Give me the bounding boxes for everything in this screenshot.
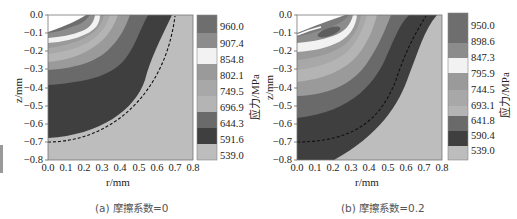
colorbar-tick: 641.8 (471, 116, 495, 126)
y-tick: −0.4 (5, 83, 43, 93)
y-tick: −0.7 (254, 137, 292, 147)
y-tick: −0.3 (5, 64, 43, 74)
colorbar-tick: 847.3 (471, 53, 495, 63)
caption-b: (b) 摩擦系数=0.2 (341, 200, 425, 215)
x-tick: 0.0 (38, 163, 58, 173)
colorbar-tick: 696.9 (220, 103, 244, 113)
x-tick: 0.8 (432, 163, 452, 173)
x-tick: 0.6 (147, 163, 167, 173)
x-tick: 0.3 (92, 163, 112, 173)
x-axis-label: r/mm (106, 176, 130, 188)
colorbar-b (448, 13, 468, 160)
colorbar-tick: 591.6 (220, 135, 244, 145)
colorbar-tick: 539.0 (220, 151, 244, 161)
y-tick: −0.6 (254, 119, 292, 129)
x-tick: 0.1 (305, 163, 325, 173)
colorbar-tick: 693.1 (471, 101, 495, 111)
x-tick: 0.4 (110, 163, 130, 173)
x-tick: 0.8 (183, 163, 203, 173)
colorbar-tick: 744.5 (471, 85, 495, 95)
y-axis-label: z/mm (263, 75, 275, 100)
x-tick: 0.6 (396, 163, 416, 173)
x-axis-label: r/mm (355, 176, 379, 188)
colorbar-tick: 795.9 (471, 69, 495, 79)
x-tick: 0.7 (165, 163, 185, 173)
caption-a: (a) 摩擦系数=0 (95, 200, 168, 215)
y-tick: −0.3 (254, 64, 292, 74)
x-tick: 0.5 (378, 163, 398, 173)
y-tick: −0.5 (5, 101, 43, 111)
x-tick: 0.4 (359, 163, 379, 173)
colorbar-tick: 950.0 (471, 21, 495, 31)
colorbar-tick: 749.5 (220, 87, 244, 97)
panel-b: 0.0 −0.1 −0.2 −0.3 −0.4 −0.5 −0.6 −0.7 −… (259, 0, 517, 219)
colorbar-tick: 590.4 (471, 131, 495, 141)
colorbar-tick: 539.0 (471, 146, 495, 156)
colorbar-tick: 907.4 (220, 39, 244, 49)
x-tick: 0.7 (414, 163, 434, 173)
x-tick: 0.1 (56, 163, 76, 173)
colorbar-tick: 854.8 (220, 55, 244, 65)
x-tick: 0.5 (129, 163, 149, 173)
colorbar-tick: 898.6 (471, 37, 495, 47)
x-tick: 0.0 (287, 163, 307, 173)
x-tick: 0.3 (341, 163, 361, 173)
y-tick: −0.1 (5, 28, 43, 38)
y-tick: −0.2 (254, 46, 292, 56)
y-axis-label: z/mm (12, 78, 24, 103)
y-tick: −0.1 (254, 28, 292, 38)
y-tick: −0.7 (5, 137, 43, 147)
y-tick: −0.5 (254, 101, 292, 111)
colorbar-tick: 802.1 (220, 71, 244, 81)
x-tick: 0.2 (74, 163, 94, 173)
colorbar-tick: 960.0 (220, 22, 244, 32)
y-tick: −0.2 (5, 46, 43, 56)
colorbar-a (197, 15, 217, 160)
y-tick: −0.6 (5, 119, 43, 129)
colorbar-label: 应力/MPa (496, 72, 512, 118)
y-tick: 0.0 (254, 10, 292, 20)
y-tick: 0.0 (5, 10, 43, 20)
x-tick: 0.2 (323, 163, 343, 173)
panel-a: 0.0 −0.1 −0.2 −0.3 −0.4 −0.5 −0.6 −0.7 −… (0, 0, 258, 219)
colorbar-tick: 644.3 (220, 119, 244, 129)
